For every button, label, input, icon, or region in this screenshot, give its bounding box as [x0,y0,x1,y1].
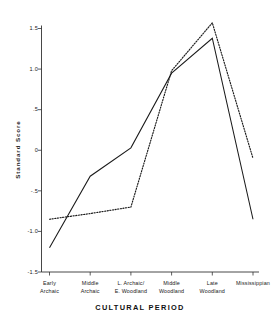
y-tick-label: 0 [10,147,38,153]
series-line-dotted-series [50,23,254,219]
y-tick-label: 1.0 [10,66,38,72]
series-line-solid-series [50,38,254,247]
chart-axes [38,26,259,276]
y-tick-label: -.5 [10,188,38,194]
y-tick-label: .5 [10,106,38,112]
x-axis-title: CULTURAL PERIOD [0,303,280,312]
chart-plot-svg [0,0,280,321]
y-tick-label: 1.5 [10,25,38,31]
x-tick-label-line: Woodland [185,287,239,295]
x-tick-label-line: Mississippian [226,279,280,287]
y-tick-label: -1.0 [10,228,38,234]
chart-figure: Standard Score CULTURAL PERIOD 1.51.0.50… [0,0,280,321]
chart-series-group [50,23,254,248]
y-tick-label: -1.5 [10,269,38,275]
x-tick-label: Mississippian [226,279,280,287]
